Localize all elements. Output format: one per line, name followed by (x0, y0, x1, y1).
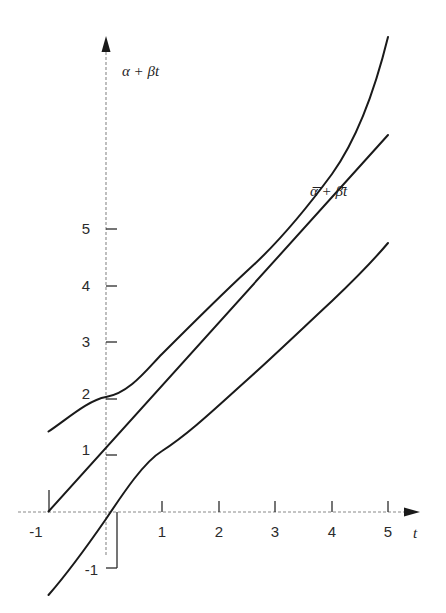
y-tick-label-5: 5 (82, 220, 90, 237)
y-axis-arrow-icon (102, 36, 111, 52)
y-axis-label: α + βt (122, 63, 160, 79)
chart-svg: 5 4 3 2 1 -1 1 2 3 4 5 -1 t α + βt ᾱ̄ + … (0, 0, 446, 613)
x-axis-arrow-icon (404, 508, 420, 517)
y-tick-label-2: 2 (82, 385, 90, 402)
x-tick-label-1: 1 (158, 523, 166, 540)
x-axis-label: t (413, 525, 418, 541)
y-tick-label-3: 3 (82, 333, 90, 350)
y-tick-label-1: 1 (82, 441, 90, 458)
curve-label-fitted: ᾱ̄ + β̄t (310, 183, 348, 199)
x-axis-group (18, 490, 420, 517)
y-tick-label-4: 4 (82, 277, 90, 294)
figure-canvas: 5 4 3 2 1 -1 1 2 3 4 5 -1 t α + βt ᾱ̄ + … (0, 0, 446, 613)
curve-lower-confidence-band (49, 243, 389, 595)
x-tick-label-neg1: -1 (29, 523, 42, 540)
curve-upper-confidence-band (49, 37, 389, 432)
x-tick-label-3: 3 (271, 523, 279, 540)
y-axis-group (102, 36, 118, 568)
x-tick-label-2: 2 (215, 523, 223, 540)
x-tick-label-4: 4 (328, 523, 336, 540)
y-tick-label-neg1: -1 (85, 561, 98, 578)
x-tick-label-5: 5 (384, 523, 392, 540)
